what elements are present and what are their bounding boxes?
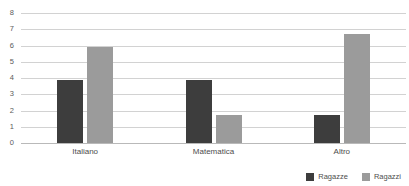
y-axis-tick-label: 6: [10, 42, 14, 50]
bars-layer: [21, 13, 406, 143]
y-axis-tick-label: 3: [10, 91, 14, 99]
bar-ragazzi-matematica: [216, 115, 242, 143]
legend-label: Ragazzi: [374, 173, 401, 181]
bar-ragazzi-italiano: [87, 47, 113, 143]
x-axis-category-label: Matematica: [193, 148, 234, 156]
y-axis-tick-label: 5: [10, 58, 14, 66]
bar-ragazze-matematica: [186, 80, 212, 143]
gridline: [21, 143, 406, 144]
x-axis-category-label: Italiano: [72, 148, 98, 156]
chart-legend: RagazzeRagazzi: [306, 173, 401, 181]
legend-swatch-icon: [306, 173, 314, 181]
y-axis-tick-labels: 876543210: [0, 13, 19, 143]
y-axis-tick-label: 7: [10, 26, 14, 34]
y-axis-tick-label: 8: [10, 9, 14, 17]
y-axis-tick-label: 2: [10, 107, 14, 115]
bar-ragazze-altro: [314, 115, 340, 143]
plot-area: [21, 13, 406, 143]
bar-chart: 876543210 ItalianoMatematicaAltro Ragazz…: [0, 0, 409, 186]
x-axis-category-labels: ItalianoMatematicaAltro: [21, 148, 406, 162]
bar-ragazze-italiano: [57, 80, 83, 143]
y-axis-tick-label: 0: [10, 139, 14, 147]
x-axis-category-label: Altro: [334, 148, 350, 156]
bar-ragazzi-altro: [344, 34, 370, 143]
y-axis-tick-label: 1: [10, 123, 14, 131]
legend-label: Ragazze: [318, 173, 348, 181]
legend-item-ragazzi[interactable]: Ragazzi: [362, 173, 401, 181]
legend-item-ragazze[interactable]: Ragazze: [306, 173, 348, 181]
legend-swatch-icon: [362, 173, 370, 181]
y-axis-tick-label: 4: [10, 74, 14, 82]
